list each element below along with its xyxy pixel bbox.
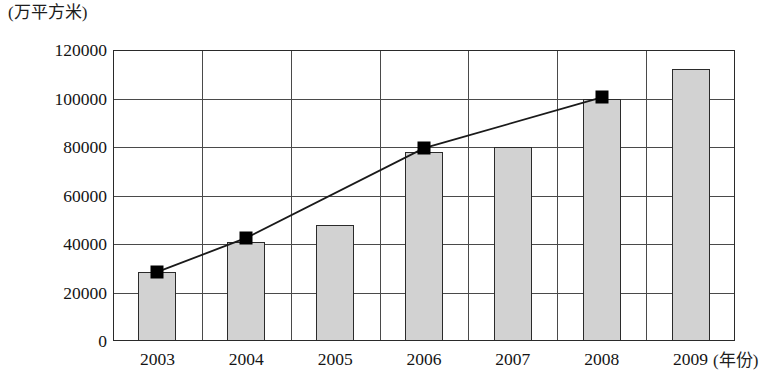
x-axis-tick-label: 2006 (379, 348, 469, 370)
x-axis-tick-label: 2008 (557, 348, 647, 370)
data-point-marker (595, 91, 608, 104)
y-axis-unit-label: (万平方米) (8, 2, 87, 24)
y-axis-tick-label: 80000 (0, 138, 107, 156)
data-point-marker (240, 231, 253, 244)
data-point-marker (418, 142, 431, 155)
plot-area (113, 50, 735, 341)
x-axis-tick-label: 2007 (468, 348, 558, 370)
x-axis-tick-label: 2009 (646, 348, 736, 370)
y-axis-tick-label: 20000 (0, 284, 107, 302)
y-axis-tick-label: 40000 (0, 235, 107, 253)
x-axis-tick-label: 2004 (201, 348, 291, 370)
bar-chart: (万平方米) (年份) 0200004000060000800001000001… (0, 0, 779, 376)
y-axis-tick-label: 60000 (0, 187, 107, 205)
y-axis-tick-label: 0 (0, 332, 107, 350)
y-axis-tick-label: 100000 (0, 90, 107, 108)
x-axis-tick-label: 2005 (290, 348, 380, 370)
data-point-marker (151, 265, 164, 278)
x-axis-tick-label: 2003 (112, 348, 202, 370)
trend-line (157, 97, 601, 272)
y-axis-tick-label: 120000 (0, 41, 107, 59)
line-series (113, 50, 735, 341)
